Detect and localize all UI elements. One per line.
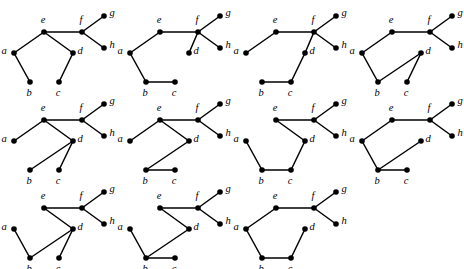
vertex-h	[333, 133, 339, 139]
graph-5: abcdefgh	[0, 88, 116, 176]
vertex-label-h: h	[457, 39, 462, 50]
vertex-g	[101, 101, 107, 107]
vertex-label-a: a	[117, 45, 122, 56]
vertex-d	[302, 226, 308, 232]
vertex-a	[127, 50, 133, 56]
vertex-f	[79, 205, 85, 211]
vertex-e	[273, 205, 279, 211]
vertex-label-g: g	[341, 7, 346, 18]
edge-d-b	[146, 141, 189, 170]
vertex-d	[186, 50, 192, 56]
vertex-label-g: g	[457, 7, 462, 18]
vertex-label-g: g	[341, 183, 346, 194]
edge-f-h	[82, 208, 104, 224]
vertex-f	[79, 117, 85, 123]
vertex-label-h: h	[225, 39, 230, 50]
vertex-f	[427, 29, 433, 35]
vertex-f	[311, 29, 317, 35]
vertex-c	[288, 167, 294, 173]
edge-f-g	[198, 104, 220, 120]
vertex-label-e: e	[41, 14, 46, 25]
graph-5-canvas: abcdefgh	[0, 88, 116, 176]
vertex-a	[127, 138, 133, 144]
vertex-b	[143, 167, 149, 173]
vertex-label-e: e	[389, 14, 394, 25]
edge-a-e	[362, 120, 392, 141]
vertex-b	[259, 79, 265, 85]
vertex-label-a: a	[1, 133, 6, 144]
edge-f-h	[82, 32, 104, 48]
vertex-label-a: a	[349, 133, 354, 144]
vertex-label-d: d	[77, 221, 83, 232]
vertex-label-f: f	[80, 190, 85, 201]
vertex-label-f: f	[312, 102, 317, 113]
vertex-d	[186, 138, 192, 144]
vertex-label-f: f	[80, 14, 85, 25]
vertex-label-e: e	[157, 102, 162, 113]
vertex-label-e: e	[273, 102, 278, 113]
vertex-label-e: e	[389, 102, 394, 113]
vertex-b	[259, 255, 265, 261]
edge-f-g	[314, 192, 336, 208]
vertex-c	[288, 79, 294, 85]
vertex-e	[273, 117, 279, 123]
vertex-h	[217, 45, 223, 51]
vertex-b	[375, 167, 381, 173]
vertex-label-b: b	[258, 263, 263, 269]
graph-10-canvas: abcdefgh	[116, 176, 232, 264]
edge-f-g	[82, 104, 104, 120]
vertex-f	[195, 205, 201, 211]
vertex-b	[143, 255, 149, 261]
vertex-label-e: e	[273, 14, 278, 25]
graph-2-canvas: abcdefgh	[116, 0, 232, 88]
vertex-label-c: c	[404, 175, 409, 186]
vertex-label-h: h	[225, 215, 230, 226]
vertex-c	[404, 79, 410, 85]
vertex-label-f: f	[312, 190, 317, 201]
vertex-label-a: a	[233, 221, 238, 232]
edge-a-e	[14, 120, 44, 141]
vertex-a	[127, 226, 133, 232]
vertex-label-d: d	[193, 221, 199, 232]
edge-a-b	[246, 229, 262, 258]
vertex-label-c: c	[172, 263, 177, 269]
graph-8: abcdefgh	[348, 88, 464, 176]
vertex-g	[449, 101, 455, 107]
vertex-label-a: a	[117, 221, 122, 232]
graph-1: abcdefgh	[0, 0, 116, 88]
vertex-f	[311, 117, 317, 123]
edge-d-c	[291, 53, 305, 82]
edge-a-b	[362, 53, 378, 82]
edge-f-g	[82, 192, 104, 208]
vertex-f	[195, 117, 201, 123]
vertex-a	[11, 226, 17, 232]
vertex-g	[217, 101, 223, 107]
vertex-label-f: f	[428, 14, 433, 25]
vertex-h	[449, 133, 455, 139]
vertex-d	[418, 138, 424, 144]
vertex-label-b: b	[142, 263, 147, 269]
vertex-f	[195, 29, 201, 35]
vertex-h	[101, 45, 107, 51]
vertex-c	[172, 255, 178, 261]
vertex-label-g: g	[109, 7, 114, 18]
vertex-label-h: h	[341, 127, 346, 138]
graph-11-canvas: abcdefgh	[232, 176, 348, 264]
vertex-h	[217, 133, 223, 139]
vertex-c	[56, 255, 62, 261]
vertex-e	[157, 205, 163, 211]
edge-e-d	[160, 208, 189, 229]
vertex-label-g: g	[109, 95, 114, 106]
graph-3-canvas: abcdefgh	[232, 0, 348, 88]
vertex-d	[302, 50, 308, 56]
vertex-g	[333, 189, 339, 195]
vertex-e	[41, 29, 47, 35]
vertex-label-h: h	[341, 215, 346, 226]
vertex-b	[27, 255, 33, 261]
vertex-label-h: h	[225, 127, 230, 138]
edge-f-h	[82, 120, 104, 136]
edge-a-e	[246, 32, 276, 53]
graph-11: abcdefgh	[232, 176, 348, 264]
vertex-g	[217, 189, 223, 195]
edge-f-h	[198, 120, 220, 136]
